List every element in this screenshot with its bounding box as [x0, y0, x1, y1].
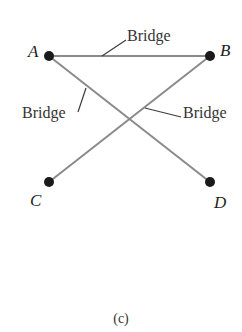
leader-bridge-ad [78, 88, 86, 112]
node-a [44, 51, 54, 61]
bridge-label-bc: Bridge [183, 104, 227, 122]
graph-diagram: A B C D Bridge Bridge Bridge (c) [0, 0, 242, 332]
figure-caption: (c) [113, 311, 129, 327]
node-label-c: C [30, 191, 42, 210]
node-label-b: B [220, 41, 231, 60]
leader-bridge-ab [102, 40, 126, 56]
node-d [205, 177, 215, 187]
bridge-label-ad: Bridge [22, 104, 66, 122]
node-label-d: D [213, 193, 227, 212]
bridge-label-ab: Bridge [127, 27, 171, 45]
node-c [44, 177, 54, 187]
node-label-a: A [27, 42, 39, 61]
leader-bridge-bc [145, 108, 181, 117]
node-b [205, 51, 215, 61]
